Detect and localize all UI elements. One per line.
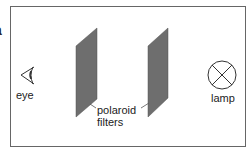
filters-label-line2: filters bbox=[97, 116, 123, 128]
filters-label-line1: polaroid bbox=[97, 104, 136, 116]
polaroid-diagram bbox=[0, 0, 248, 153]
polaroid-filter-left bbox=[76, 28, 97, 117]
eye-icon bbox=[21, 67, 34, 84]
lamp-label: lamp bbox=[211, 92, 235, 104]
leader-line-left bbox=[90, 104, 96, 108]
diagram-border bbox=[11, 7, 246, 147]
eye-label: eye bbox=[16, 89, 34, 101]
lamp-icon bbox=[208, 61, 236, 89]
polaroid-filter-right bbox=[148, 28, 168, 117]
